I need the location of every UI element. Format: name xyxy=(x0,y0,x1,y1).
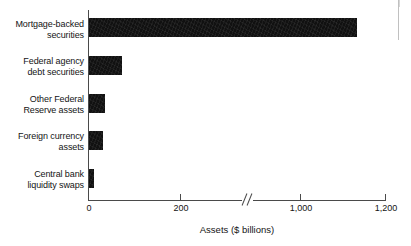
bar-foreign-currency-assets xyxy=(89,131,103,150)
bar-chart: Mortgage-backed securities Federal agenc… xyxy=(0,0,411,246)
category-label-other-federal-reserve-assets: Other Federal Reserve assets xyxy=(0,94,84,115)
category-label-foreign-currency-assets: Foreign currency assets xyxy=(0,131,84,152)
scan-edge-artifact-secondary xyxy=(399,0,400,7)
x-tick-label-1200: 1,200 xyxy=(375,203,398,214)
x-tick-0 xyxy=(88,194,89,201)
category-label-mortgage-backed-securities: Mortgage-backed securities xyxy=(0,19,84,40)
x-tick-200 xyxy=(180,194,181,201)
x-axis-title: Assets ($ billions) xyxy=(88,224,386,235)
y-axis-line xyxy=(88,10,89,200)
category-label-federal-agency-debt-securities: Federal agency debt securities xyxy=(0,56,84,77)
axis-break-icon xyxy=(240,193,255,207)
bar-other-federal-reserve-assets xyxy=(89,94,105,113)
x-axis-line xyxy=(88,200,386,201)
x-tick-label-1000: 1,000 xyxy=(290,203,313,214)
bar-mortgage-backed-securities xyxy=(89,18,357,37)
bar-central-bank-liquidity-swaps xyxy=(89,169,94,188)
bar-federal-agency-debt-securities xyxy=(89,56,122,75)
category-label-central-bank-liquidity-swaps: Central bank liquidity swaps xyxy=(0,169,84,190)
x-tick-1200 xyxy=(385,194,386,201)
x-tick-label-0: 0 xyxy=(86,203,91,214)
x-tick-1000 xyxy=(300,194,301,201)
x-tick-label-200: 200 xyxy=(173,203,188,214)
